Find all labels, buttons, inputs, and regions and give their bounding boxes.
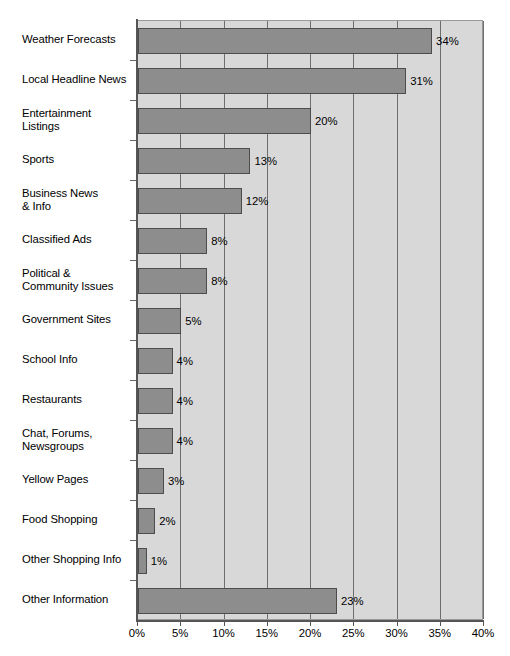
category-label: Sports <box>22 153 140 167</box>
x-axis-tick <box>483 620 484 626</box>
category-tick <box>130 340 137 341</box>
category-tick <box>130 140 137 141</box>
bar <box>138 588 337 614</box>
category-tick <box>130 540 137 541</box>
category-tick <box>130 260 137 261</box>
x-axis-tick-label: 10% <box>204 628 244 639</box>
gridline <box>353 21 354 619</box>
x-axis-tick-label: 0% <box>117 628 157 639</box>
category-tick <box>130 180 137 181</box>
bar-value-label: 31% <box>410 76 433 87</box>
bar-value-label: 13% <box>254 156 277 167</box>
bar-value-label: 12% <box>246 196 269 207</box>
bar <box>138 68 406 94</box>
bar-value-label: 8% <box>211 276 227 287</box>
x-axis-tick <box>310 620 311 626</box>
bar-value-label: 4% <box>177 396 193 407</box>
bar <box>138 468 164 494</box>
category-label: School Info <box>22 353 140 367</box>
x-axis-tick-label: 15% <box>247 628 287 639</box>
category-label: Other Shopping Info <box>22 553 140 567</box>
x-axis-tick <box>224 620 225 626</box>
category-label: Local Headline News <box>22 73 140 87</box>
y-axis-line <box>136 19 138 621</box>
x-axis-tick <box>267 620 268 626</box>
x-axis-tick <box>137 620 138 626</box>
category-label: Restaurants <box>22 393 140 407</box>
category-label: Business News & Info <box>22 187 140 214</box>
category-tick <box>130 60 137 61</box>
bar <box>138 388 173 414</box>
category-tick <box>130 500 137 501</box>
category-tick <box>130 420 137 421</box>
x-axis-tick-label: 5% <box>160 628 200 639</box>
bar-value-label: 8% <box>211 236 227 247</box>
bar-value-label: 34% <box>436 36 459 47</box>
category-label: Other Information <box>22 593 140 607</box>
bar-value-label: 4% <box>177 356 193 367</box>
bar-value-label: 4% <box>177 436 193 447</box>
bar <box>138 428 173 454</box>
category-label: Yellow Pages <box>22 473 140 487</box>
bar <box>138 548 147 574</box>
category-tick <box>130 460 137 461</box>
x-axis-tick <box>397 620 398 626</box>
x-axis-tick <box>353 620 354 626</box>
gridline <box>440 21 441 619</box>
x-axis-tick <box>180 620 181 626</box>
bar-value-label: 3% <box>168 476 184 487</box>
gridline <box>483 21 484 619</box>
bar-value-label: 2% <box>159 516 175 527</box>
bar <box>138 268 207 294</box>
bar <box>138 228 207 254</box>
gridline <box>397 21 398 619</box>
x-axis-tick-label: 25% <box>333 628 373 639</box>
category-tick <box>130 220 137 221</box>
bar <box>138 108 311 134</box>
bar <box>138 28 432 54</box>
bar-value-label: 1% <box>151 556 167 567</box>
category-tick <box>130 300 137 301</box>
category-label: Weather Forecasts <box>22 33 140 47</box>
category-label: Food Shopping <box>22 513 140 527</box>
plot-area: 34%31%20%13%12%8%8%5%4%4%4%3%2%1%23% <box>137 20 483 620</box>
bar <box>138 148 250 174</box>
category-label: Political & Community Issues <box>22 267 140 294</box>
category-tick <box>130 580 137 581</box>
x-axis-tick-label: 30% <box>377 628 417 639</box>
bar <box>138 188 242 214</box>
bar <box>138 308 181 334</box>
x-axis-tick-label: 40% <box>463 628 503 639</box>
category-label: Chat, Forums, Newsgroups <box>22 427 140 454</box>
x-axis-tick-label: 20% <box>290 628 330 639</box>
category-label: Entertainment Listings <box>22 107 140 134</box>
bar-value-label: 5% <box>185 316 201 327</box>
bar <box>138 508 155 534</box>
category-label: Classified Ads <box>22 233 140 247</box>
category-tick <box>130 380 137 381</box>
x-axis-tick <box>440 620 441 626</box>
category-label-column: Weather ForecastsLocal Headline NewsEnte… <box>0 20 137 620</box>
bar-value-label: 20% <box>315 116 338 127</box>
x-axis-tick-label: 35% <box>420 628 460 639</box>
bar <box>138 348 173 374</box>
bar-value-label: 23% <box>341 596 364 607</box>
category-tick <box>130 100 137 101</box>
category-label: Government Sites <box>22 313 140 327</box>
horizontal-bar-chart: Weather ForecastsLocal Headline NewsEnte… <box>0 0 510 656</box>
